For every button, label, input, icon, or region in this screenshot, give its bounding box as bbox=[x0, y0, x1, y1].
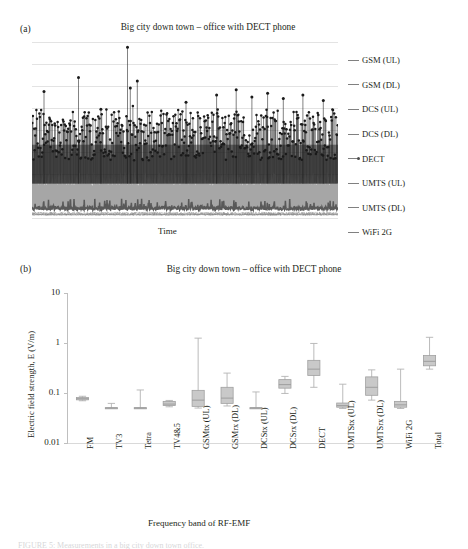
panel-a-title: Big city down town – office with DECT ph… bbox=[84, 22, 332, 32]
box-gsmtx-ul[interactable] bbox=[192, 338, 204, 408]
xaxis-tick-label: TV3 bbox=[115, 434, 124, 449]
panel-b-xaxis-title: Frequency band of RF-EMF bbox=[148, 518, 250, 528]
legend-line-icon bbox=[348, 109, 359, 110]
xaxis-tick-label: Tetra bbox=[144, 432, 153, 449]
box-tv3[interactable] bbox=[105, 403, 117, 408]
panel-b-letter: (b) bbox=[20, 264, 31, 274]
box-gsmrx-dl[interactable] bbox=[221, 373, 233, 406]
panel-a-timeseries: (a) Big city down town – office with DEC… bbox=[0, 0, 468, 262]
legend-label: UMTS (DL) bbox=[362, 203, 405, 213]
timeseries-traces bbox=[32, 42, 338, 219]
yaxis-tick-label: 10 bbox=[18, 287, 60, 297]
boxplot-boxes bbox=[68, 293, 444, 443]
legend-item-umts-ul[interactable]: UMTS (UL) bbox=[348, 171, 468, 196]
legend-line-icon bbox=[348, 60, 359, 61]
legend-item-dcs-ul[interactable]: DCS (UL) bbox=[348, 97, 468, 122]
boxplot-plot-area bbox=[68, 293, 444, 443]
legend-item-dect[interactable]: DECT bbox=[348, 146, 468, 171]
xaxis-tick-label: DCStx (UL) bbox=[260, 407, 269, 449]
legend-item-gsm-dl[interactable]: GSM (DL) bbox=[348, 73, 468, 98]
legend-line-icon bbox=[348, 207, 359, 208]
panel-a-xaxis-title: Time bbox=[158, 226, 177, 236]
xaxis-tick-label: FM bbox=[86, 437, 95, 449]
yaxis-tick-label: 1 bbox=[18, 337, 60, 347]
xaxis-tick-label: UMTStx (UL) bbox=[347, 400, 356, 449]
box-dcsrx-dl[interactable] bbox=[279, 376, 291, 393]
yaxis-tick-label: 0.01 bbox=[18, 437, 60, 447]
xaxis-tick-label: GSMrx (DL) bbox=[231, 405, 240, 449]
legend-label: DCS (DL) bbox=[362, 129, 398, 139]
legend-label: GSM (DL) bbox=[362, 80, 400, 90]
legend-label: DCS (UL) bbox=[362, 104, 398, 114]
figure-caption: FIGURE 5: Measurements in a big city dow… bbox=[18, 541, 458, 549]
box-fm[interactable] bbox=[76, 396, 88, 400]
panel-b-boxplot: (b) Big city down town – office with DEC… bbox=[0, 262, 468, 549]
box-tv4-5[interactable] bbox=[163, 400, 175, 406]
legend-label: WiFi 2G bbox=[362, 227, 392, 237]
legend-line-icon bbox=[348, 134, 359, 135]
legend-item-dcs-dl[interactable]: DCS (DL) bbox=[348, 122, 468, 147]
figure-container: (a) Big city down town – office with DEC… bbox=[0, 0, 468, 549]
legend-line-icon bbox=[348, 183, 359, 184]
legend-line-icon bbox=[348, 232, 359, 233]
box-total[interactable] bbox=[423, 337, 435, 369]
yaxis-tick-label: 0.1 bbox=[18, 387, 60, 397]
box-dect[interactable] bbox=[308, 343, 320, 387]
box-umtsrx-dl[interactable] bbox=[366, 370, 378, 400]
legend-item-wifi-2g[interactable]: WiFi 2G bbox=[348, 220, 468, 245]
xaxis-tick-label: Total bbox=[434, 432, 443, 449]
panel-b-title: Big city down town – office with DECT ph… bbox=[130, 264, 378, 274]
legend-label: GSM (UL) bbox=[362, 55, 400, 65]
panel-a-letter: (a) bbox=[20, 24, 31, 34]
xaxis-tick-label: TV4&5 bbox=[173, 423, 182, 449]
xaxis-tick-label: DCSrx (DL) bbox=[289, 407, 298, 449]
legend-line-dot-icon bbox=[348, 158, 359, 159]
timeseries-plot-area bbox=[32, 42, 338, 219]
xaxis-tick-label: WiFi 2G bbox=[405, 420, 414, 449]
legend-item-gsm-ul[interactable]: GSM (UL) bbox=[348, 48, 468, 73]
yaxis-tick-mark bbox=[64, 443, 68, 444]
legend-line-icon bbox=[348, 84, 359, 85]
xaxis-tick-label: GSMtx (UL) bbox=[202, 405, 211, 449]
legend-label: DECT bbox=[362, 154, 384, 164]
xaxis-tick-label: UMTSrx (DL) bbox=[376, 400, 385, 449]
box-wifi-2g[interactable] bbox=[395, 369, 407, 408]
timeseries-legend: GSM (UL) GSM (DL) DCS (UL) DCS (DL) DECT… bbox=[348, 48, 468, 245]
legend-label: UMTS (UL) bbox=[362, 178, 405, 188]
xaxis-tick-label: DECT bbox=[318, 427, 327, 449]
box-tetra[interactable] bbox=[134, 390, 146, 409]
legend-item-umts-dl[interactable]: UMTS (DL) bbox=[348, 196, 468, 221]
